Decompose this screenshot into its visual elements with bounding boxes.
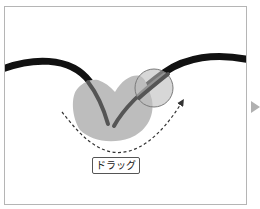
next-arrow-icon	[251, 101, 260, 113]
illustration	[0, 0, 260, 209]
drag-label: ドラッグ	[92, 157, 140, 174]
